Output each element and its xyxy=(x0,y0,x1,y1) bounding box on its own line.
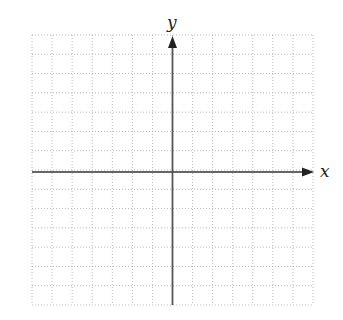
x-axis-arrow-icon xyxy=(302,168,314,177)
y-axis-arrow-icon xyxy=(168,36,177,48)
x-axis-label: x xyxy=(320,161,330,181)
coordinate-plane: x y xyxy=(0,0,343,320)
x-axis: x xyxy=(32,161,330,181)
y-axis-label: y xyxy=(166,12,177,32)
y-axis: y xyxy=(166,12,177,305)
